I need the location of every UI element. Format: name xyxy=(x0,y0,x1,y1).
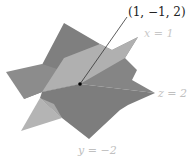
point-label: (1, −1, 2) xyxy=(128,5,186,19)
plane-label-z: z = 2 xyxy=(157,87,187,100)
intersection-point xyxy=(78,82,82,86)
plane-label-y: y = −2 xyxy=(77,144,117,157)
three-planes-diagram: (1, −1, 2) x = 1 z = 2 y = −2 xyxy=(0,0,188,164)
plane-label-x: x = 1 xyxy=(144,27,173,40)
